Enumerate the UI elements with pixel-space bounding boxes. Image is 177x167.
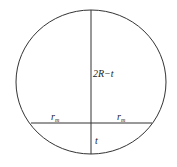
label-right-sub: m (121, 117, 126, 123)
circle-chord-diagram: 2R−t rm rm t (0, 0, 177, 167)
label-upper-segment: 2R−t (93, 68, 114, 79)
label-left-sub: m (55, 117, 60, 123)
label-left-half-chord: rm (51, 111, 60, 123)
label-right-half-chord: rm (117, 111, 126, 123)
label-lower-segment: t (95, 135, 98, 146)
